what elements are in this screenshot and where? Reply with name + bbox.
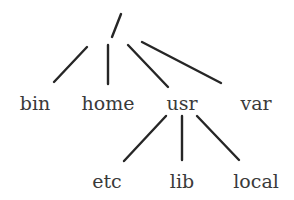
node-lib: lib: [170, 170, 194, 192]
node-usr: usr: [166, 92, 198, 114]
edge-root-var: [142, 42, 221, 83]
root-slash: [112, 14, 121, 37]
edge-root-bin: [54, 47, 87, 82]
node-bin: bin: [20, 92, 50, 114]
edge-usr-local: [197, 116, 239, 160]
edge-usr-etc: [124, 116, 166, 161]
directory-tree-diagram: binhomeusrvaretcliblocal: [0, 0, 294, 200]
node-etc: etc: [92, 170, 122, 192]
root-slash-stroke: [112, 14, 121, 37]
node-var: var: [239, 92, 272, 114]
node-home: home: [82, 92, 135, 114]
tree-node-labels: binhomeusrvaretcliblocal: [20, 92, 279, 192]
node-local: local: [233, 170, 279, 192]
